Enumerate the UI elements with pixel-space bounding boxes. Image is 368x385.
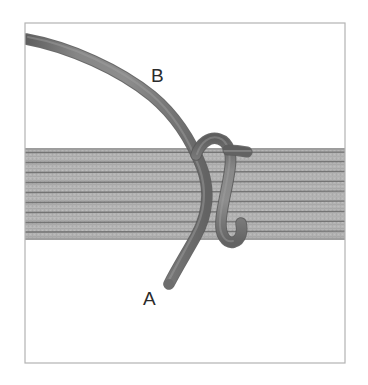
label-a: A bbox=[143, 288, 156, 309]
label-b: B bbox=[151, 65, 164, 86]
webbing-band bbox=[25, 148, 345, 240]
rope-tuck-stub bbox=[228, 150, 247, 152]
rope-end-a-tip bbox=[164, 279, 174, 289]
figure-root: B A bbox=[0, 0, 368, 385]
knot-diagram: B A bbox=[0, 0, 368, 385]
